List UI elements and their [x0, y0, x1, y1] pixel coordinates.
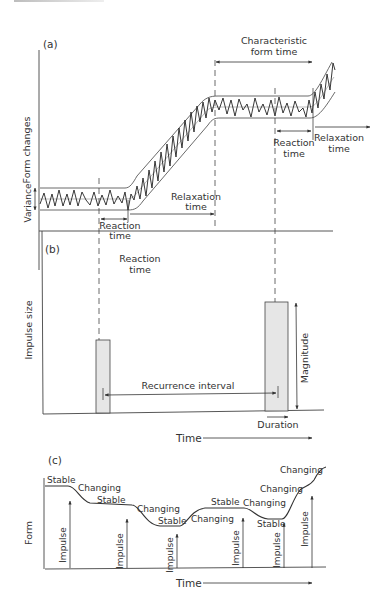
- panel-a: (a) Form changes Variance Characteristic…: [21, 35, 370, 360]
- state-label: Stable: [97, 495, 126, 505]
- panel-c-y-label: Form: [23, 521, 34, 545]
- reaction-time-right-line2: time: [283, 148, 305, 159]
- impulse-label: Impulse: [58, 527, 68, 563]
- state-label: Changing: [260, 484, 303, 494]
- panel-b-reaction-time-line2: time: [129, 264, 151, 275]
- panel-b-y-axis: [42, 231, 43, 414]
- recurrence-interval-arrow: [105, 393, 276, 395]
- impulse-label: Impulse: [165, 537, 175, 573]
- characteristic-form-time-line1: Characteristic: [241, 35, 307, 46]
- state-label: Changing: [280, 465, 323, 475]
- impulse-bar-large: [265, 302, 288, 411]
- magnitude-label: Magnitude: [299, 333, 310, 383]
- state-label: Changing: [191, 514, 234, 524]
- panel-b-label: (b): [45, 243, 60, 255]
- recurrence-interval-label: Recurrence interval: [142, 380, 235, 391]
- panel-b-y-label: Impulse size: [23, 300, 34, 359]
- reaction-time-left-line2: time: [109, 230, 131, 241]
- duration-label: Duration: [257, 419, 298, 430]
- characteristic-form-time-line2: form time: [251, 46, 298, 57]
- relaxation-time-right-line2: time: [328, 143, 350, 154]
- magnitude-arrow: [296, 303, 297, 409]
- diagram-canvas: (a) Form changes Variance Characteristic…: [0, 0, 376, 614]
- panel-c-label: (c): [48, 454, 62, 466]
- panel-c: (c) Form Stable Changing Stable Changing…: [23, 454, 326, 589]
- panel-b: (b) Impulse size Reaction time Recurrenc…: [23, 231, 324, 444]
- panel-b-reaction-time-line1: Reaction: [119, 253, 160, 264]
- impulse-label: Impulse: [300, 511, 310, 547]
- impulse-label: Impulse: [272, 532, 282, 568]
- panel-c-time-label: Time: [175, 577, 202, 589]
- state-label: Stable: [257, 519, 286, 529]
- impulse-bar-small: [96, 340, 110, 413]
- state-label: Changing: [137, 504, 180, 514]
- state-label: Stable: [211, 497, 240, 507]
- relaxation-time-right-line1: Relaxation: [314, 132, 364, 143]
- panel-b-time-label: Time: [175, 432, 202, 444]
- state-label: Changing: [243, 498, 286, 508]
- state-label: Changing: [78, 483, 121, 493]
- panel-a-y-label: Form changes: [21, 117, 32, 184]
- impulse-label: Impulse: [115, 533, 125, 569]
- impulse-label: Impulse: [231, 530, 241, 566]
- relaxation-time-mid-line2: time: [185, 201, 207, 212]
- variance-label: Variance: [23, 183, 33, 222]
- reaction-time-right-line1: Reaction: [273, 137, 314, 148]
- state-label: Stable: [47, 475, 76, 485]
- panel-a-label: (a): [43, 38, 58, 50]
- state-label: Stable: [158, 516, 187, 526]
